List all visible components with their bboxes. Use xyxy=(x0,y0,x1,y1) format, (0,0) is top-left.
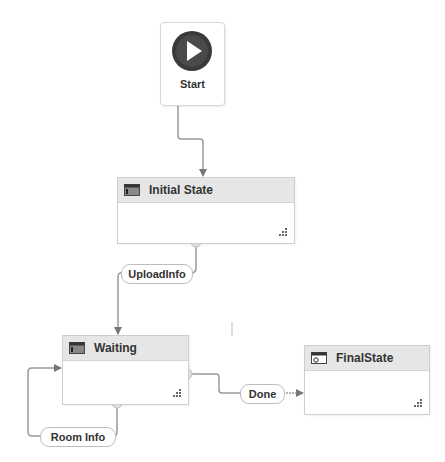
workflow-canvas[interactable]: Start Initial State Waiting xyxy=(0,0,445,462)
state-initial[interactable]: Initial State xyxy=(117,177,295,244)
state-header: Initial State xyxy=(118,178,294,203)
resize-grip-icon[interactable] xyxy=(279,228,288,237)
state-title: Initial State xyxy=(149,183,213,197)
state-header: FinalState xyxy=(305,346,429,371)
transition-label-room-info[interactable]: Room Info xyxy=(40,427,116,447)
transition-label-uploadinfo[interactable]: UploadInfo xyxy=(121,264,193,284)
state-waiting[interactable]: Waiting xyxy=(62,335,189,405)
state-final[interactable]: FinalState xyxy=(304,345,430,415)
state-icon xyxy=(69,342,85,354)
transition-label-done[interactable]: Done xyxy=(240,384,285,404)
resize-grip-icon[interactable] xyxy=(173,389,182,398)
state-title: FinalState xyxy=(336,351,393,365)
state-icon xyxy=(124,184,140,196)
start-label: Start xyxy=(161,78,224,90)
state-header: Waiting xyxy=(63,336,188,361)
play-icon xyxy=(171,30,213,72)
final-state-icon xyxy=(311,352,327,364)
state-title: Waiting xyxy=(94,341,137,355)
start-node[interactable]: Start xyxy=(160,22,225,106)
resize-grip-icon[interactable] xyxy=(414,399,423,408)
